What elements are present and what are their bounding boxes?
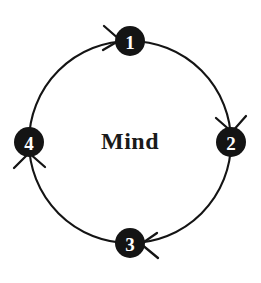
edge-3-to-4-arc [29, 142, 130, 243]
node-2[interactable]: 2 [216, 127, 246, 157]
node-4[interactable]: 4 [14, 127, 44, 157]
node-1-label: 1 [125, 32, 135, 53]
edge-4-to-1-arc [29, 41, 130, 142]
node-3[interactable]: 3 [115, 228, 145, 258]
cycle-diagram: 1 2 3 4 Mind [0, 0, 261, 283]
node-2-label: 2 [226, 133, 236, 154]
node-4-label: 4 [24, 133, 34, 154]
edge-1-to-2-arc [130, 41, 231, 142]
cycle-diagram-canvas: 1 2 3 4 Mind [0, 0, 261, 283]
edge-2-to-3-arc [130, 142, 231, 243]
node-1[interactable]: 1 [115, 26, 145, 56]
center-label: Mind [101, 128, 159, 154]
node-3-label: 3 [125, 234, 135, 255]
